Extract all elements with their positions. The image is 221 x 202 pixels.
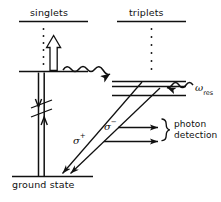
break-marks	[31, 100, 52, 117]
sigma-plus-label: σ+	[73, 131, 86, 148]
singlet-dots-column	[43, 28, 45, 65]
ground-state-label: ground state	[12, 180, 75, 190]
omega-res-symbol: ω	[195, 82, 203, 93]
detection-brace	[162, 119, 170, 141]
triplet-dots-column	[151, 28, 153, 70]
omega-res-label: ωres	[195, 78, 213, 97]
triplets-label: triplets	[129, 8, 164, 18]
sigma-minus-superscript: −	[111, 118, 117, 126]
omega-res-subscript: res	[203, 89, 213, 97]
sigma-plus-superscript: +	[80, 132, 86, 140]
sigma-plus-symbol: σ	[73, 135, 80, 146]
photon-detection-label-line1: photon	[174, 120, 206, 129]
omega-res-wavy-arrow	[167, 83, 193, 88]
energy-level-diagram: singlets triplets ground state ωres σ+ σ…	[0, 0, 221, 202]
intersystem-crossing-arrow	[63, 67, 110, 75]
sigma-minus-symbol: σ	[104, 121, 111, 132]
pump-arrow	[47, 36, 61, 71]
diagram-canvas	[0, 0, 221, 202]
photon-detection-label-line2: detection	[174, 131, 217, 140]
singlets-label: singlets	[30, 8, 68, 18]
sigma-minus-label: σ−	[104, 117, 117, 134]
